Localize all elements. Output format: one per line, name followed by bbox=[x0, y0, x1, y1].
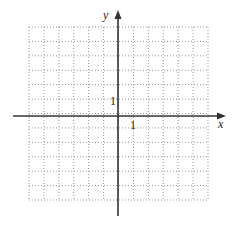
coordinate-grid-svg bbox=[0, 0, 240, 225]
x-unit-tick-label: 1 bbox=[130, 119, 136, 131]
x-axis-label: x bbox=[218, 118, 223, 130]
y-axis-arrow-icon bbox=[115, 10, 122, 19]
y-axis bbox=[115, 10, 122, 216]
y-axis-label: y bbox=[103, 9, 108, 21]
y-unit-tick-label: 1 bbox=[110, 95, 116, 107]
coordinate-plane: y x 1 1 bbox=[0, 0, 240, 225]
